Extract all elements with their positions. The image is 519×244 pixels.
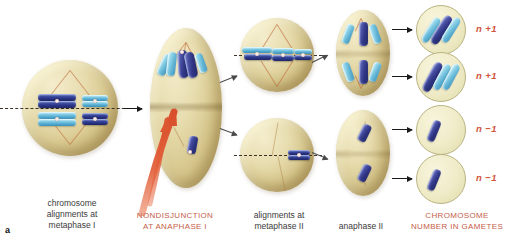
metaphase-plate-i [0,108,140,109]
stage-anaphase-i [140,28,226,192]
stage-anaphase-ii-bottom [330,110,396,200]
caption-anaphase-ii: anaphase II [328,221,394,232]
stage-anaphase-ii-top [330,10,396,100]
stage-metaphase-i [18,58,122,158]
ploidy-label-gamete-4: n −1 [476,172,497,183]
cell-anaphase-ii-bottom [336,110,390,196]
arrow-to-gamete-1 [392,29,412,30]
ploidy-label-gamete-2: n +1 [476,70,497,81]
arrow-to-gamete-3 [392,129,412,130]
caption-gametes: CHROMOSOME NUMBER IN GAMETES [398,210,516,232]
caption-nondisjunction: NONDISJUNCTION AT ANAPHASE I [123,210,227,232]
gamete-cell-3 [416,105,466,155]
caption-metaphase-i: chromosome alignments at metaphase I [26,198,118,231]
arrow-to-gamete-4 [392,178,412,179]
stage-metaphase-ii-bottom [238,118,318,196]
nondisjunction-figure: n +1 n +1 n −1 n −1 chromosome alignment… [0,0,519,244]
nondisjunction-red-arrow [136,86,206,216]
gamete-cell-4 [416,154,466,204]
arrow-to-gamete-2 [392,76,412,77]
caption-metaphase-ii: alignments at metaphase II [240,210,318,232]
ploidy-label-gamete-3: n −1 [476,123,497,134]
stage-metaphase-ii-top [238,18,318,96]
gamete-cell-2 [416,52,466,102]
ploidy-label-gamete-1: n +1 [476,23,497,34]
gamete-cell-1 [416,5,466,55]
panel-letter: a [5,225,10,235]
